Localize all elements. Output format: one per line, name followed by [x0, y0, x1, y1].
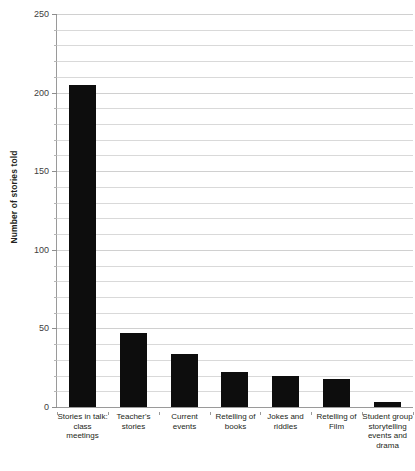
gridline-major	[57, 407, 413, 408]
x-axis-label: Jokes and riddles	[260, 412, 311, 431]
bar	[69, 85, 96, 407]
y-tick-mark-minor	[54, 77, 57, 78]
x-axis-label: Student group storytelling events and dr…	[362, 412, 413, 450]
chart-title: Number of stories told in classroom	[0, 0, 415, 2]
bar	[171, 354, 198, 407]
gridline-minor	[57, 218, 413, 219]
y-tick-mark-minor	[54, 234, 57, 235]
x-tick-mark	[57, 412, 58, 415]
gridline-minor	[57, 61, 413, 62]
gridline-minor	[57, 187, 413, 188]
y-tick-mark	[52, 250, 57, 251]
gridline-minor	[57, 140, 413, 141]
y-tick-label: 0	[44, 402, 49, 412]
gridline-major	[57, 171, 413, 172]
y-tick-mark-minor	[54, 313, 57, 314]
y-tick-mark-minor	[54, 140, 57, 141]
y-tick-mark-minor	[54, 30, 57, 31]
y-tick-mark	[52, 93, 57, 94]
y-tick-mark-minor	[54, 360, 57, 361]
x-axis-label: Retelling of books	[210, 412, 261, 431]
gridline-major	[57, 14, 413, 15]
y-tick-mark-minor	[54, 45, 57, 46]
y-tick-mark-minor	[54, 203, 57, 204]
x-tick-mark	[413, 412, 414, 415]
y-axis-spine	[56, 14, 57, 407]
x-axis-label-group: Stories in talk: class meetingsTeacher's…	[57, 412, 413, 471]
y-tick-mark	[52, 171, 57, 172]
y-tick-mark-minor	[54, 61, 57, 62]
gridline-minor	[57, 297, 413, 298]
y-tick-mark	[52, 328, 57, 329]
gridline-minor	[57, 313, 413, 314]
gridline-major	[57, 93, 413, 94]
x-axis-label: Stories in talk: class meetings	[57, 412, 108, 441]
y-tick-mark	[52, 14, 57, 15]
y-tick-label: 150	[34, 166, 49, 176]
gridline-minor	[57, 234, 413, 235]
gridline-minor	[57, 266, 413, 267]
plot-area: 050100150200250	[57, 14, 413, 407]
y-tick-label: 250	[34, 9, 49, 19]
y-tick-mark-minor	[54, 281, 57, 282]
gridline-minor	[57, 108, 413, 109]
gridline-minor	[57, 124, 413, 125]
y-tick-mark-minor	[54, 297, 57, 298]
gridline-major	[57, 250, 413, 251]
x-axis-label: Teacher's stories	[108, 412, 159, 431]
y-tick-mark-minor	[54, 344, 57, 345]
gridline-minor	[57, 281, 413, 282]
bar	[374, 402, 401, 407]
gridline-minor	[57, 30, 413, 31]
gridline-minor	[57, 45, 413, 46]
gridline-minor	[57, 360, 413, 361]
y-axis-title: Number of stories told	[9, 122, 19, 272]
bar-chart: Number of stories told in classroom Numb…	[0, 0, 415, 471]
gridline-major	[57, 328, 413, 329]
y-tick-mark-minor	[54, 108, 57, 109]
y-tick-mark-minor	[54, 218, 57, 219]
gridline-minor	[57, 344, 413, 345]
y-tick-label: 100	[34, 245, 49, 255]
y-tick-mark-minor	[54, 187, 57, 188]
y-tick-mark-minor	[54, 124, 57, 125]
y-tick-mark-minor	[54, 266, 57, 267]
bar	[120, 333, 147, 407]
x-axis-label: Current events	[159, 412, 210, 431]
y-tick-mark-minor	[54, 391, 57, 392]
y-tick-mark-minor	[54, 376, 57, 377]
y-tick-label: 200	[34, 88, 49, 98]
gridline-minor	[57, 203, 413, 204]
gridline-minor	[57, 155, 413, 156]
bar	[323, 379, 350, 407]
bar	[221, 372, 248, 407]
bar	[272, 376, 299, 407]
gridline-minor	[57, 77, 413, 78]
y-tick-mark-minor	[54, 155, 57, 156]
y-tick-mark	[52, 407, 57, 408]
y-tick-label: 50	[39, 323, 49, 333]
x-axis-label: Retelling of Film	[311, 412, 362, 431]
